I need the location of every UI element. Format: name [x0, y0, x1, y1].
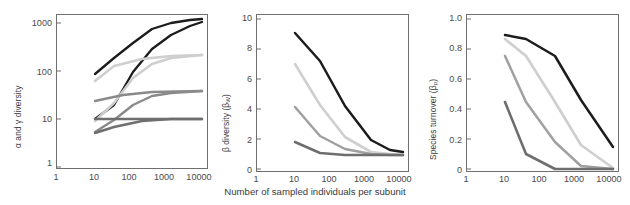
panel2-ytick-8: 8 [226, 43, 252, 53]
panel2-ytick-4: 4 [226, 104, 252, 114]
panel2-ylabel-post: ) [221, 94, 231, 97]
panel2-ytick-6: 6 [226, 74, 252, 84]
panel2-curves [257, 15, 410, 173]
curve-turnover-3 [505, 56, 613, 169]
panel2-xtick-10000: 10000 [380, 174, 418, 184]
panel3-plot-area [466, 14, 619, 172]
panel3-xtick-1000: 1000 [557, 174, 591, 184]
panel3-ylabel-beta: β [428, 85, 438, 90]
panel3-ylabel-pre: Species turnover ( [428, 90, 438, 160]
panel-species-turnover: Species turnover (βp) 1.0 0.8 0.6 0.4 0.… [415, 0, 630, 205]
panel3-xtick-10000: 10000 [590, 174, 628, 184]
panel2-ytick-10: 10 [226, 13, 252, 23]
panel2-ylabel-subscript: W [225, 97, 231, 103]
panel1-ylabel-pre: α and [13, 124, 23, 148]
panel1-xtick-1000: 1000 [147, 172, 181, 182]
panel1-ytick-1000: 1000 [18, 18, 52, 28]
panel1-xtick-100: 100 [114, 172, 144, 182]
panel3-xtick-100: 100 [524, 174, 554, 184]
panel1-curves [57, 15, 209, 170]
panel1-ytick-10: 10 [18, 114, 52, 124]
panel1-ytick-100: 100 [18, 67, 52, 77]
panel-alpha-gamma-diversity: α and γ diversity 1000 100 10 1 [0, 0, 210, 205]
panel2-tick-marks [257, 19, 261, 169]
panel3-xtick-1: 1 [453, 174, 479, 184]
panel3-y-axis-label: Species turnover (βp) [428, 79, 438, 160]
panel3-ytick-02: 0.2 [430, 135, 462, 145]
panel2-ylabel-pre: β diversity ( [221, 108, 231, 152]
figure-three-panel-diversity: α and γ diversity 1000 100 10 1 [0, 0, 630, 205]
panel1-ytick-1: 1 [18, 158, 52, 168]
panel1-tick-marks [57, 23, 61, 167]
panel-beta-diversity: β diversity (βW) 10 8 6 4 2 0 [210, 0, 415, 205]
panel2-xtick-1000: 1000 [347, 174, 381, 184]
panel2-xtick-10: 10 [281, 174, 307, 184]
panel3-ytick-08: 0.8 [430, 43, 462, 53]
panel1-xtick-10: 10 [81, 172, 107, 182]
panel3-xtick-10: 10 [491, 174, 517, 184]
panel1-plot-area [56, 14, 208, 169]
shared-x-axis-title: Number of sampled individuals per subuni… [0, 186, 630, 197]
curve-turnover-4 [505, 102, 613, 169]
curve-turnover-2 [505, 39, 613, 168]
panel2-xtick-100: 100 [314, 174, 344, 184]
panel2-xtick-1: 1 [243, 174, 269, 184]
panel1-xtick-1: 1 [43, 172, 69, 182]
panel2-plot-area [256, 14, 409, 172]
panel3-ytick-10: 1.0 [430, 13, 462, 23]
curve-alpha-mid [95, 55, 202, 121]
panel2-ytick-2: 2 [226, 135, 252, 145]
panel3-ytick-06: 0.6 [430, 74, 462, 84]
panel3-ytick-04: 0.4 [430, 104, 462, 114]
panel3-curves [467, 15, 620, 173]
panel3-tick-marks [467, 19, 471, 169]
